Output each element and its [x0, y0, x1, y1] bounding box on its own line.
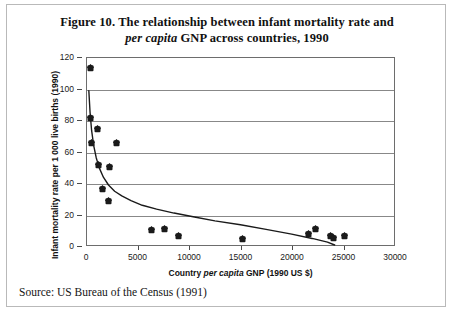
data-point [105, 197, 112, 204]
data-point [175, 232, 182, 239]
gridline [87, 90, 394, 91]
y-tick-label: 80 [65, 115, 74, 125]
data-point [312, 225, 319, 232]
y-tick-label: 0 [69, 241, 74, 251]
x-tick-label: 5000 [128, 252, 147, 262]
x-axis-title-prefix: Country [169, 268, 204, 278]
figure-title-line2-rest: GNP across countries, 1990 [177, 31, 328, 45]
data-point [239, 235, 246, 242]
data-point [161, 225, 168, 232]
x-tick-label: 30000 [383, 252, 407, 262]
y-tick-label: 40 [65, 178, 74, 188]
x-tick-label: 15000 [229, 252, 253, 262]
data-point [113, 139, 120, 146]
y-tick-mark [77, 120, 82, 121]
y-axis-ticks: 020406080100120 [7, 45, 86, 247]
data-point [95, 161, 102, 168]
figure-panel: Figure 10. The relationship between infa… [6, 4, 446, 307]
x-axis-title: Country per capita GNP (1990 US $) [86, 268, 395, 278]
x-tick-label: 25000 [332, 252, 356, 262]
plot-area [86, 57, 395, 246]
x-tick-mark [292, 246, 293, 250]
x-tick-label: 20000 [280, 252, 304, 262]
data-point [330, 234, 337, 241]
y-tick-mark [77, 215, 82, 216]
gridline [87, 184, 394, 185]
data-point [148, 226, 155, 233]
y-tick-label: 20 [65, 210, 74, 220]
y-tick-label: 100 [60, 84, 74, 94]
data-point [341, 232, 348, 239]
x-tick-label: 10000 [177, 252, 201, 262]
x-tick-mark [344, 246, 345, 250]
x-tick-mark [138, 246, 139, 250]
y-tick-mark [77, 246, 82, 247]
x-tick-mark [189, 246, 190, 250]
x-axis-title-suffix: GNP (1990 US $) [244, 268, 313, 278]
figure-title-italic: per capita [125, 31, 177, 45]
y-tick-mark [77, 152, 82, 153]
figure-title: Figure 10. The relationship between infa… [7, 14, 447, 46]
figure-title-line1: Figure 10. The relationship between infa… [60, 15, 394, 29]
x-tick-label: 0 [84, 252, 89, 262]
data-point [87, 114, 94, 121]
data-point [88, 139, 95, 146]
gridline [87, 121, 394, 122]
chart: Infant mortality rate per 1 000 live bir… [7, 45, 447, 285]
y-tick-mark [77, 183, 82, 184]
y-tick-mark [77, 89, 82, 90]
y-tick-label: 60 [65, 147, 74, 157]
data-point [305, 230, 312, 237]
x-tick-mark [241, 246, 242, 250]
gridline [87, 153, 394, 154]
data-point [99, 185, 106, 192]
source-note: Source: US Bureau of the Census (1991) [19, 286, 207, 298]
data-point [94, 125, 101, 132]
x-axis-ticks: 050001000015000200002500030000 [7, 45, 447, 75]
fitted-curve [87, 58, 394, 245]
x-axis-title-italic: per capita [203, 268, 243, 278]
gridline [87, 216, 394, 217]
data-point [106, 163, 113, 170]
